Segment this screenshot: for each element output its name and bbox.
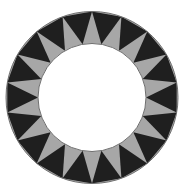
ring-inner-disc [38, 44, 146, 152]
annular-zigzag-figure [0, 0, 185, 192]
inner-disc [38, 44, 146, 152]
